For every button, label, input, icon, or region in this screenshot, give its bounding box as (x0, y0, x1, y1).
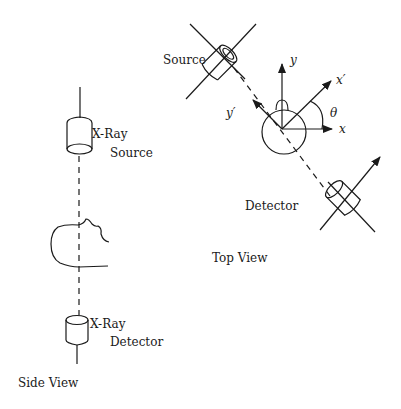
top-detector-label: Detector (245, 199, 298, 213)
xray-source-cylinder-icon (67, 117, 92, 154)
head-top-icon (262, 110, 306, 154)
detector-label-line1: X-Ray (90, 317, 126, 331)
diagram-canvas: X-Ray Source X-Ray Detector Side View y … (0, 0, 401, 409)
source-label-line1: X-Ray (92, 127, 128, 141)
xray-detector-cylinder-icon (66, 316, 88, 346)
x-axis-label: x (339, 122, 346, 136)
beam-path-top (234, 68, 333, 200)
detector-axis-arrow (320, 157, 380, 230)
y-prime-axis-label: y′ (225, 106, 236, 120)
x-prime-axis-label: x′ (336, 73, 346, 87)
y-prime-axis-arrow (253, 100, 282, 129)
source-label-line2: Source (110, 146, 153, 160)
top-view: y x x′ y′ θ Source Detector Top View (163, 24, 380, 265)
detector-cross-line (328, 182, 375, 232)
theta-arc (310, 101, 323, 129)
detector-label-line2: Detector (110, 335, 163, 349)
top-view-title: Top View (212, 251, 268, 265)
side-view: X-Ray Source X-Ray Detector Side View (18, 87, 163, 390)
x-prime-axis-arrow (282, 81, 331, 129)
theta-label: θ (330, 106, 338, 120)
side-view-title: Side View (18, 376, 79, 390)
y-axis-label: y (289, 53, 297, 67)
head-profile-side-icon (51, 219, 109, 267)
top-source-label: Source (163, 53, 206, 67)
